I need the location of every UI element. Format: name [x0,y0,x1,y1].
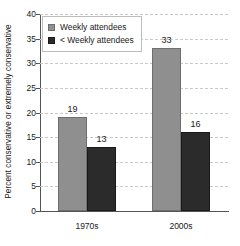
bar-chart: Percent conservative or extremely conser… [0,0,240,246]
x-axis-category-label: 1970s [57,222,117,231]
bar [87,147,116,211]
y-axis-tick-label: 20 [20,109,36,118]
y-axis-tick [36,162,40,163]
legend-label-weekly-attendees: Weekly attendees [60,23,126,31]
bar-value-label: 33 [146,36,187,45]
y-axis-title-text: Percent conservative or extremely conser… [4,24,13,198]
bar [181,132,210,211]
bar-value-label: 19 [52,105,93,114]
y-axis-tick-label: 10 [20,158,36,167]
bar-value-label: 16 [175,120,216,129]
legend-item-weekly-attendees: Weekly attendees [48,21,134,34]
y-axis-tick [36,113,40,114]
legend-swatch-icon-weekly-attendees [48,24,55,31]
y-axis-tick-label: 0 [20,207,36,216]
y-axis-tick [36,186,40,187]
gridline [40,63,228,64]
y-axis-tick [36,88,40,89]
y-axis-tick-label: 25 [20,84,36,93]
chart-legend: Weekly attendees < Weekly attendees [42,16,142,52]
bar [152,48,181,211]
y-axis-title: Percent conservative or extremely conser… [0,0,16,222]
y-axis-tick [36,14,40,15]
y-axis-tick-label: 40 [20,10,36,19]
y-axis-tick-label: 5 [20,182,36,191]
y-axis-tick-label: 15 [20,133,36,142]
x-axis-category-label: 2000s [151,222,211,231]
bar [58,117,87,211]
bar-value-label: 13 [81,135,122,144]
legend-item-less-than-weekly-attendees: < Weekly attendees [48,34,134,47]
gridline [40,88,228,89]
y-axis-tick-labels: 0510152025303540 [16,0,36,246]
legend-swatch-icon-less-than-weekly-attendees [48,37,55,44]
y-axis-tick-label: 35 [20,35,36,44]
y-axis-tick [36,211,40,212]
y-axis-tick [36,137,40,138]
x-axis-line [40,211,229,212]
legend-label-less-than-weekly-attendees: < Weekly attendees [60,36,134,44]
gridline [40,14,228,15]
y-axis-tick-label: 30 [20,59,36,68]
y-axis-tick [36,63,40,64]
y-axis-tick [36,39,40,40]
